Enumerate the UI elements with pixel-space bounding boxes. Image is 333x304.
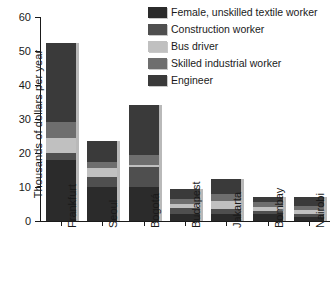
- x-tick-label: Bogotá: [149, 193, 161, 228]
- bar-segment: [87, 168, 117, 177]
- bar-segment: [46, 153, 76, 160]
- legend-swatch: [148, 24, 167, 35]
- bar-segment: [87, 162, 117, 169]
- bar-segment: [129, 155, 159, 165]
- legend-swatch: [148, 41, 167, 52]
- y-tick-label: 50: [19, 45, 31, 57]
- y-tick-label: 0: [25, 215, 31, 227]
- legend-label: Female, unskilled textile worker: [171, 6, 317, 18]
- y-tick: [35, 221, 40, 222]
- y-tick: [35, 51, 40, 52]
- legend-swatch: [148, 75, 167, 86]
- x-tick: [144, 222, 145, 226]
- bar-segment: [46, 122, 76, 137]
- y-tick: [35, 153, 40, 154]
- legend-label: Construction worker: [171, 23, 264, 35]
- chart-legend: Female, unskilled textile workerConstruc…: [148, 4, 317, 89]
- bar-segment: [129, 167, 159, 187]
- x-tick-label: Seoul: [107, 200, 119, 228]
- x-tick-label: Frankfurt: [66, 184, 78, 228]
- legend-label: Skilled industrial worker: [171, 57, 281, 69]
- y-tick-label: 40: [19, 79, 31, 91]
- legend-label: Bus driver: [171, 40, 218, 52]
- legend-swatch: [148, 58, 167, 69]
- legend-item[interactable]: Skilled industrial worker: [148, 55, 317, 71]
- bar-segment: [129, 105, 159, 154]
- x-tick-label: Bombay: [273, 188, 285, 228]
- stacked-bar-chart: Thousands of dollars per year 0102030405…: [0, 0, 333, 304]
- y-tick-label: 30: [19, 113, 31, 125]
- x-tick: [309, 222, 310, 226]
- bar-segment: [87, 141, 117, 161]
- x-tick: [226, 222, 227, 226]
- legend-item[interactable]: Female, unskilled textile worker: [148, 4, 317, 20]
- y-tick-label: 60: [19, 11, 31, 23]
- y-tick: [35, 85, 40, 86]
- y-tick: [35, 17, 40, 18]
- x-tick: [61, 222, 62, 226]
- y-tick: [35, 119, 40, 120]
- bar-segment: [46, 138, 76, 153]
- legend-item[interactable]: Engineer: [148, 72, 317, 88]
- y-tick-label: 10: [19, 181, 31, 193]
- bar-segment: [46, 43, 76, 123]
- x-tick-label: Budapest: [190, 182, 202, 228]
- legend-swatch: [148, 7, 167, 18]
- legend-label: Engineer: [171, 74, 213, 86]
- legend-item[interactable]: Bus driver: [148, 38, 317, 54]
- y-axis-line: [40, 17, 41, 222]
- x-tick: [185, 222, 186, 226]
- x-tick-label: Jakarta: [231, 192, 243, 228]
- y-tick: [35, 187, 40, 188]
- x-tick-label: Nairobi: [314, 193, 326, 228]
- y-tick-label: 20: [19, 147, 31, 159]
- x-tick: [102, 222, 103, 226]
- legend-item[interactable]: Construction worker: [148, 21, 317, 37]
- bar-segment: [87, 177, 117, 187]
- x-tick: [268, 222, 269, 226]
